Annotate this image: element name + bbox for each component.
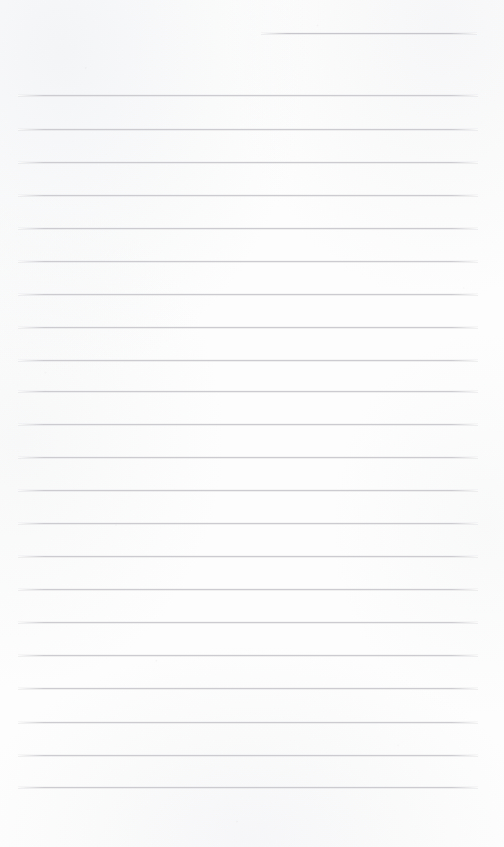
writing-area[interactable] — [0, 0, 504, 847]
lined-paper-page — [0, 0, 504, 847]
